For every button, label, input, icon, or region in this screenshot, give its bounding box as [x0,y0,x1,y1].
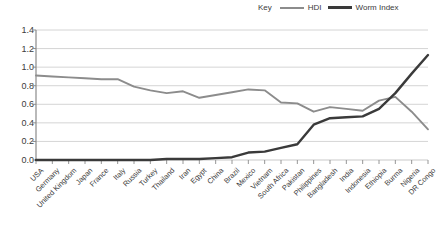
series-line-hdi [36,76,428,130]
chart-container: Key HDI Worm Index 0.00.20.40.60.81.01.2… [0,0,445,234]
